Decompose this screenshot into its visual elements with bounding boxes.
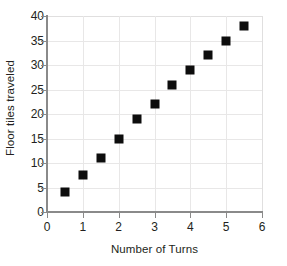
x-tick-label: 1 [68,220,98,234]
gridline-vertical [190,16,191,212]
x-tick-mark [119,212,120,218]
y-tick-mark [41,41,47,42]
y-tick-mark [41,114,47,115]
y-axis-title: Floor tiles traveled [0,0,20,215]
x-tick-mark [190,212,191,218]
scatter-plot-figure: Floor tiles traveled 0510152025303540 01… [0,0,287,266]
x-tick-mark [47,212,48,218]
data-point [222,36,231,45]
plot-area [47,16,262,212]
x-axis-tick-labels: 0123456 [0,220,287,236]
x-tick-label: 2 [104,220,134,234]
y-axis-tick-labels: 0510152025303540 [20,0,44,215]
gridline-vertical [226,16,227,212]
data-point [60,188,69,197]
y-tick-mark [41,65,47,66]
gridline-vertical [119,16,120,212]
x-tick-label: 4 [175,220,205,234]
data-point [114,134,123,143]
data-point [96,154,105,163]
y-tick-mark [41,188,47,189]
y-tick-mark [41,90,47,91]
data-point [204,51,213,60]
x-tick-mark [226,212,227,218]
x-tick-label: 5 [211,220,241,234]
data-point [240,21,249,30]
x-axis-title: Number of Turns [47,243,262,255]
data-point [78,171,87,180]
gridline-vertical [262,16,263,212]
data-point [150,100,159,109]
data-point [186,65,195,74]
x-tick-label: 3 [140,220,170,234]
x-tick-mark [155,212,156,218]
y-tick-mark [41,16,47,17]
x-tick-label: 6 [247,220,277,234]
data-point [132,114,141,123]
data-point [168,80,177,89]
x-tick-mark [262,212,263,218]
y-axis-title-text: Floor tiles traveled [4,60,16,156]
x-tick-label: 0 [32,220,62,234]
gridline-vertical [83,16,84,212]
gridline-vertical [155,16,156,212]
y-tick-mark [41,163,47,164]
y-tick-mark [41,139,47,140]
x-tick-mark [83,212,84,218]
